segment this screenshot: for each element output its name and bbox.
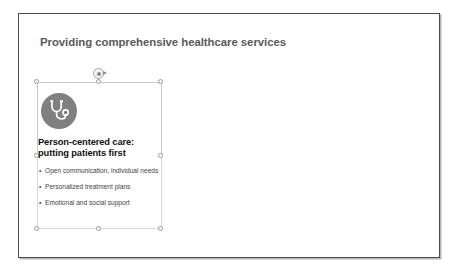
resize-handle-bottom-left[interactable] [34,226,39,231]
content-shape[interactable]: Person-centered care: putting patients f… [37,82,162,229]
slide-canvas[interactable]: Providing comprehensive healthcare servi… [18,13,440,258]
bullet-marker: • [39,167,41,175]
resize-handle-bottom-right[interactable] [158,226,163,231]
rotate-handle-arrow-icon [103,71,107,75]
list-item-label: Open communication, individual needs [45,167,158,174]
list-item-label: Emotional and social support [45,199,130,206]
resize-handle-top-left[interactable] [34,79,39,84]
bullet-list[interactable]: • Open communication, individual needs •… [38,167,162,215]
card-heading[interactable]: Person-centered care: putting patients f… [38,137,162,160]
list-item[interactable]: • Open communication, individual needs [38,167,162,175]
list-item[interactable]: • Emotional and social support [38,199,162,207]
resize-handle-top-center[interactable] [96,79,101,84]
resize-handle-top-right[interactable] [158,79,163,84]
list-item[interactable]: • Personalized treatment plans [38,183,162,191]
rotate-handle-dot [97,72,101,76]
stethoscope-icon [41,93,77,129]
list-item-label: Personalized treatment plans [45,183,130,190]
rotate-handle[interactable] [93,68,104,79]
slide-title[interactable]: Providing comprehensive healthcare servi… [40,36,410,48]
bullet-marker: • [39,199,41,207]
resize-handle-bottom-center[interactable] [96,226,101,231]
bullet-marker: • [39,183,41,191]
